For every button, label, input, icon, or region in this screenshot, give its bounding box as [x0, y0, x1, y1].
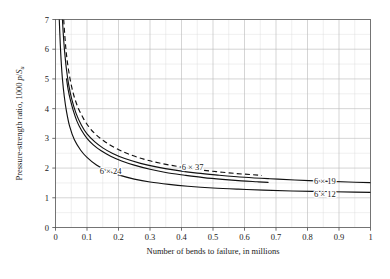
x-axis-title: Number of bends to failure, in millions [147, 246, 280, 256]
x-tick-label: 0.4 [176, 232, 187, 242]
y-tick-label: 2 [45, 163, 49, 173]
x-tick-label: 0.7 [271, 232, 282, 242]
x-tick-label: 0.3 [145, 232, 156, 242]
y-axis-title: Pressure-strength ratio, 1000 p/Su [14, 66, 25, 180]
y-tick-label: 6 [45, 44, 49, 54]
y-tick-label: 0 [45, 223, 49, 233]
x-tick-label: 0.1 [82, 232, 93, 242]
y-tick-label: 1 [45, 193, 49, 203]
chart-figure: 00.10.20.30.40.50.60.70.80.91 01234567 6… [0, 0, 390, 279]
x-tick-label: 0.6 [239, 232, 250, 242]
x-tick-label: 0.2 [113, 232, 124, 242]
curve-label-6-x-19: 6 × 19 [314, 176, 336, 186]
x-tick-label: 0.9 [334, 232, 345, 242]
y-tick-label: 7 [45, 15, 49, 25]
y-tick-label: 3 [45, 133, 49, 143]
chart-background [0, 0, 390, 279]
pressure-strength-ratio-chart: 00.10.20.30.40.50.60.70.80.91 01234567 6… [0, 0, 390, 279]
x-tick-label: 0 [53, 232, 57, 242]
curve-label-6-x-12: 6 × 12 [314, 189, 336, 199]
x-tick-label: 0.8 [302, 232, 313, 242]
y-tick-label: 5 [45, 74, 49, 84]
x-tick-label: 1 [368, 232, 372, 242]
x-tick-label: 0.5 [208, 232, 219, 242]
curve-label-6-x-37: 6 × 37 [182, 162, 204, 172]
curve-label-6-x-24: 6 × 24 [100, 166, 123, 176]
